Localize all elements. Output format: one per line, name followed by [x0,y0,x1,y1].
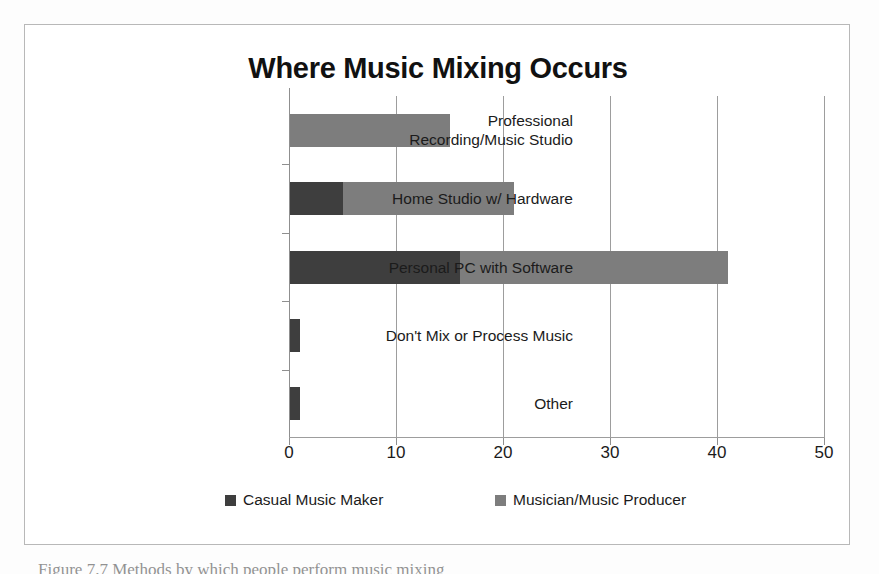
y-axis-line [289,88,290,438]
y-tick-mark [282,301,289,302]
y-tick-mark [282,370,289,371]
legend-item: Musician/Music Producer [495,491,686,509]
category-label: Don't Mix or Process Music [386,326,573,345]
category-label: Other [534,394,573,413]
x-tick-label: 30 [601,443,620,463]
category-label: Professional Recording/Music Studio [409,111,573,149]
x-tick-label: 40 [708,443,727,463]
x-tick-label: 10 [387,443,406,463]
gridline [824,96,825,438]
category-label: Home Studio w/ Hardware [392,189,573,208]
category-label: Personal PC with Software [389,258,573,277]
bar-segment [289,387,300,420]
bar-segment [289,182,343,215]
x-tick-label: 0 [284,443,293,463]
legend-label: Casual Music Maker [243,491,383,509]
x-tick-label: 20 [494,443,513,463]
figure-caption: Figure 7.7 Methods by which people perfo… [38,560,838,574]
chart-title: Where Music Mixing Occurs [25,52,851,85]
x-axis-line [289,437,824,438]
chart-legend: Casual Music MakerMusician/Music Produce… [25,491,851,517]
y-tick-mark [282,233,289,234]
legend-item: Casual Music Maker [225,491,383,509]
figure-page: Where Music Mixing Occurs Professional R… [0,0,879,574]
legend-swatch-icon [495,495,506,506]
y-tick-mark [282,164,289,165]
bar-segment [289,319,300,352]
figure-frame: Where Music Mixing Occurs Professional R… [24,24,850,545]
x-tick-label: 50 [815,443,834,463]
legend-swatch-icon [225,495,236,506]
legend-label: Musician/Music Producer [513,491,686,509]
